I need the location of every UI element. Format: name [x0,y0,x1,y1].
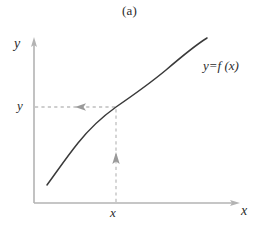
guide-lines-group [35,103,120,202]
x-axis-label: x [241,203,247,219]
y-value-label: y [17,98,23,114]
function-equation-label: y=f (x) [203,58,239,74]
x-value-label: x [110,205,116,221]
function-curve-group [47,38,207,185]
function-curve [47,38,207,185]
horizontal-guide-arrowhead [75,103,86,111]
y-axis-label: y [14,36,20,52]
plot-canvas [0,0,259,232]
figure-container: (a) y x y x y=f (x) [0,0,259,232]
